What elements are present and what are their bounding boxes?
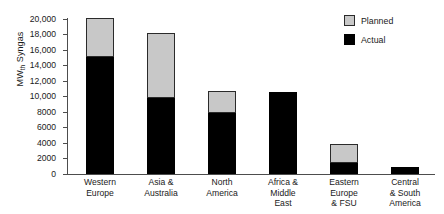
legend-swatch-planned-icon — [344, 15, 355, 26]
y-tick-label: 10,000 — [30, 90, 56, 102]
x-axis-label-line: Africa & — [252, 177, 314, 188]
y-tick-label: 18,000 — [30, 28, 56, 40]
bar-segment-actual — [208, 113, 236, 174]
bar-segment-planned — [330, 144, 358, 163]
x-axis-label: NorthAmerica — [191, 177, 253, 198]
legend-item-planned: Planned — [344, 13, 440, 28]
y-tick-label: 2000 — [37, 152, 56, 164]
x-axis-label-line: Middle — [252, 188, 314, 199]
x-axis-label-line: & FSU — [313, 198, 375, 209]
legend-item-actual: Actual — [344, 32, 440, 47]
bar-segment-actual — [330, 163, 358, 174]
bar-group — [208, 14, 236, 175]
x-axis-label-line: America — [191, 188, 253, 199]
x-axis-label-line: America — [374, 198, 436, 209]
x-axis-label-line: East — [252, 198, 314, 209]
x-axis-label-line: Europe — [69, 188, 131, 199]
syngas-capacity-bar-chart: MWth Syngas 20,00018,00016,00014,00012,0… — [0, 0, 444, 214]
y-tick-label: 4000 — [37, 137, 56, 149]
bar-segment-actual — [147, 98, 175, 174]
x-axis-label-line: Western — [69, 177, 131, 188]
y-tick-label: 16,000 — [30, 44, 56, 56]
x-axis-label: Africa &MiddleEast — [252, 177, 314, 209]
bar-group — [269, 14, 297, 175]
x-axis-label-line: Europe — [313, 188, 375, 199]
y-tick-label: 8000 — [37, 106, 56, 118]
legend-label-planned: Planned — [361, 16, 393, 26]
y-tick-label: 20,000 — [30, 13, 56, 25]
chart-legend: Planned Actual — [344, 13, 440, 51]
x-axis-category-labels: WesternEuropeAsia &AustraliaNorthAmerica… — [68, 177, 435, 214]
y-tick-label: 0 — [51, 168, 56, 180]
x-axis-label-line: Eastern — [313, 177, 375, 188]
y-axis-tick-labels: 20,00018,00016,00014,00012,00010,0008000… — [0, 0, 70, 214]
x-axis-label: WesternEurope — [69, 177, 131, 198]
legend-swatch-actual-icon — [344, 34, 355, 45]
bar-group — [86, 14, 114, 175]
bar-segment-planned — [147, 33, 175, 98]
bar-segment-planned — [86, 18, 114, 58]
x-axis-label-line: Asia & — [130, 177, 192, 188]
x-axis-label-line: Central — [374, 177, 436, 188]
bar-segment-actual — [269, 92, 297, 174]
legend-label-actual: Actual — [361, 35, 385, 45]
x-axis-label-line: North — [191, 177, 253, 188]
y-tick-label: 6000 — [37, 121, 56, 133]
x-axis-label-line: Australia — [130, 188, 192, 199]
bar-segment-actual — [86, 57, 114, 174]
bar-group — [147, 14, 175, 175]
y-tick-label: 12,000 — [30, 75, 56, 87]
x-axis-label-line: & South — [374, 188, 436, 199]
x-axis-label: Central& SouthAmerica — [374, 177, 436, 209]
x-axis-label: EasternEurope& FSU — [313, 177, 375, 209]
x-axis-label: Asia &Australia — [130, 177, 192, 198]
bar-segment-actual — [391, 167, 419, 174]
bar-segment-planned — [208, 91, 236, 112]
y-tick-label: 14,000 — [30, 59, 56, 71]
